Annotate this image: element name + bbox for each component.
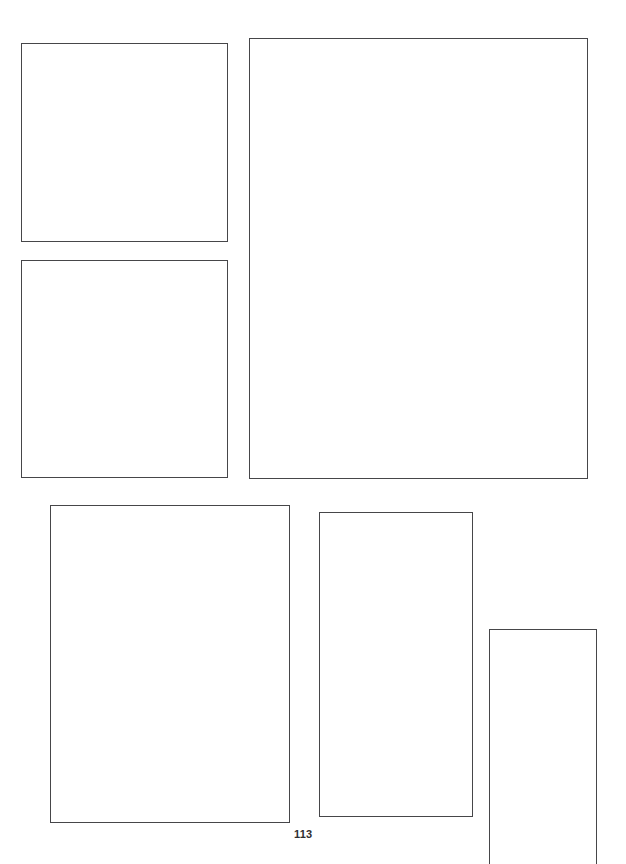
page-number: 113	[294, 829, 312, 840]
frame-bottom-left[interactable]	[50, 505, 290, 823]
frame-bottom-right[interactable]	[489, 629, 597, 864]
frame-top-left[interactable]	[21, 43, 228, 242]
frame-bottom-middle[interactable]	[319, 512, 473, 817]
frame-top-right-large[interactable]	[249, 38, 588, 479]
scanned-page: 113	[0, 0, 626, 864]
frame-middle-left[interactable]	[21, 260, 228, 478]
